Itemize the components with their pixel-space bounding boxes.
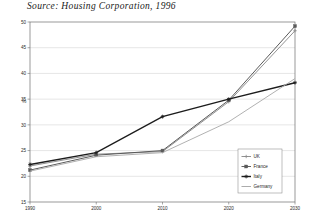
x-axis-labels-group: 19902000201020202030 [25,206,301,211]
x-tickmarks-group [30,202,295,205]
x-axis-tick-label: 2010 [157,206,168,211]
chart-figure: Source: Housing Corporation, 1996 152025… [0,0,312,215]
y-axis-labels-group: 1520253035404550 [21,20,27,205]
x-axis-tick-label: 1990 [25,206,36,211]
square-marker [161,149,164,152]
y-axis-tick-label: 40 [21,71,27,76]
legend-item-label: UK [254,154,261,159]
y-tickmarks-group [28,22,31,202]
legend-item-label: Italy [254,174,263,179]
chart-legend[interactable]: UKFranceItalyGermany [238,149,282,193]
y-axis-tick-label: 30 [21,123,27,128]
legend-item-label: Germany [254,184,274,189]
y-axis-tick-label: 20 [21,174,27,179]
y-axis-tick-label: 50 [21,20,27,25]
y-axis-tick-label: 25 [21,148,27,153]
square-marker [245,165,248,168]
x-axis-tick-label: 2020 [224,206,235,211]
line-chart-plot: 1520253035404550 19902000201020202030 % … [0,0,312,215]
y-axis-unit-label: % [22,98,27,104]
x-axis-tick-label: 2030 [290,206,301,211]
series-line [30,31,295,166]
x-axis-tick-label: 2000 [91,206,102,211]
y-axis-tick-label: 45 [21,45,27,50]
square-marker [294,25,297,28]
series-uk [28,29,296,168]
legend-item-label: France [254,164,269,169]
y-axis-tick-label: 15 [21,200,27,205]
